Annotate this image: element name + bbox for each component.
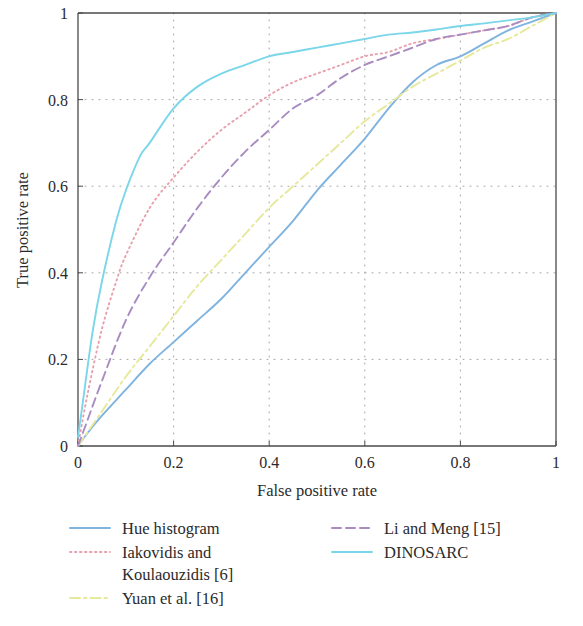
axis-ticks <box>78 13 556 446</box>
data-series-group <box>78 13 556 446</box>
y-tick-label: 0 <box>60 438 68 455</box>
chart-legend: Hue histogramIakovidis and Koulaouzidis … <box>68 518 568 622</box>
x-tick-label: 0 <box>74 454 82 471</box>
y-axis-title: True positive rate <box>13 172 32 288</box>
roc-chart-svg: 00.20.40.60.8100.20.40.60.81 False posit… <box>0 0 583 510</box>
y-tick-label: 0.2 <box>48 351 68 368</box>
legend-line-swatch-icon <box>68 542 112 562</box>
x-tick-label: 0.6 <box>355 454 375 471</box>
series-line-hue-histogram <box>78 13 556 446</box>
x-axis-title: False positive rate <box>257 481 377 500</box>
legend-item-label: Hue histogram <box>122 518 220 540</box>
grid-lines <box>78 13 556 446</box>
x-tick-label: 0.8 <box>450 454 470 471</box>
y-tick-label: 0.6 <box>48 178 68 195</box>
legend-line-swatch-icon <box>330 542 374 562</box>
legend-line-swatch-icon <box>330 518 374 538</box>
legend-item-label: DINOSARC <box>384 542 468 564</box>
legend-item-label: Li and Meng [15] <box>384 518 501 540</box>
legend-item[interactable]: Li and Meng [15] <box>330 518 568 540</box>
legend-column-right: Li and Meng [15]DINOSARC <box>330 518 568 566</box>
axis-tick-labels: 00.20.40.60.8100.20.40.60.81 <box>48 5 560 471</box>
y-tick-label: 0.4 <box>48 265 68 282</box>
y-tick-label: 1 <box>60 5 68 22</box>
series-line-dinosarc <box>78 13 556 437</box>
legend-line-swatch-icon <box>68 518 112 538</box>
legend-item[interactable]: Hue histogram <box>68 518 318 540</box>
legend-item-label: Yuan et al. [16] <box>122 588 224 610</box>
x-tick-label: 0.4 <box>259 454 279 471</box>
y-tick-label: 0.8 <box>48 92 68 109</box>
legend-column-left: Hue histogramIakovidis and Koulaouzidis … <box>68 518 318 612</box>
series-line-yuan-et-al-16 <box>78 13 556 446</box>
legend-item[interactable]: Yuan et al. [16] <box>68 588 318 610</box>
legend-line-swatch-icon <box>68 588 112 608</box>
x-tick-label: 0.2 <box>164 454 184 471</box>
axis-frame <box>78 13 556 446</box>
x-tick-label: 1 <box>552 454 560 471</box>
roc-curve-figure: 00.20.40.60.8100.20.40.60.81 False posit… <box>0 0 583 626</box>
series-line-iakovidis-and-koulaouzidis-6 <box>78 13 556 446</box>
legend-item[interactable]: Iakovidis and Koulaouzidis [6] <box>68 542 318 586</box>
legend-item-label: Iakovidis and Koulaouzidis [6] <box>122 542 233 586</box>
series-line-li-and-meng-15 <box>78 13 556 446</box>
legend-item[interactable]: DINOSARC <box>330 542 568 564</box>
chart-plot-area: 00.20.40.60.8100.20.40.60.81 False posit… <box>0 0 583 510</box>
